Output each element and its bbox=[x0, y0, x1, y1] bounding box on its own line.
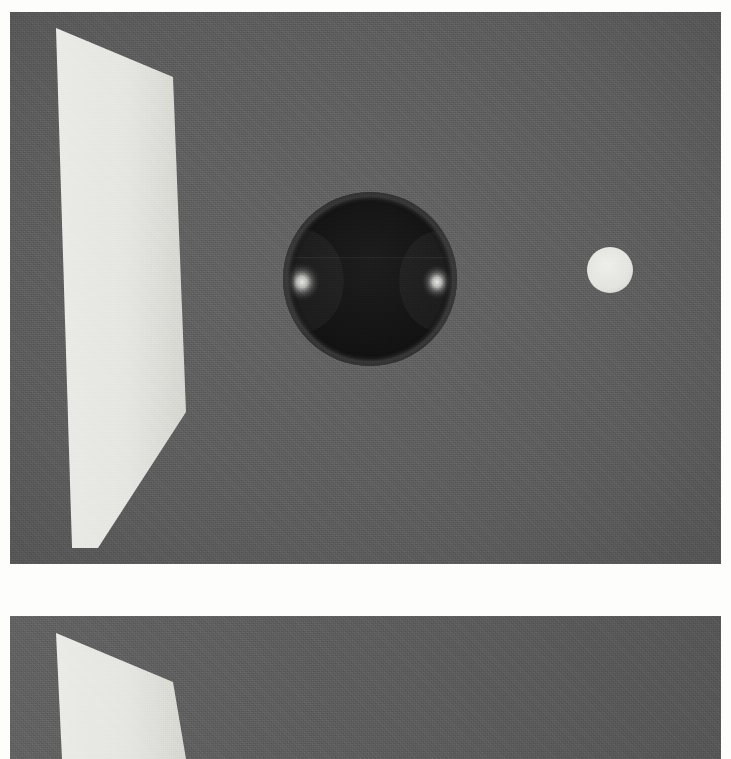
page-canvas bbox=[0, 0, 731, 759]
top-margin bbox=[0, 0, 731, 12]
lower-scene-graphic bbox=[0, 616, 721, 759]
frame-separator-gap bbox=[0, 564, 731, 616]
lower-render-frame bbox=[0, 616, 721, 759]
left-margin bbox=[0, 0, 10, 759]
sphere-rim-light bbox=[283, 192, 457, 366]
upper-scene-graphic bbox=[0, 12, 721, 564]
upper-render-frame bbox=[0, 12, 721, 564]
white-disc bbox=[587, 247, 633, 293]
